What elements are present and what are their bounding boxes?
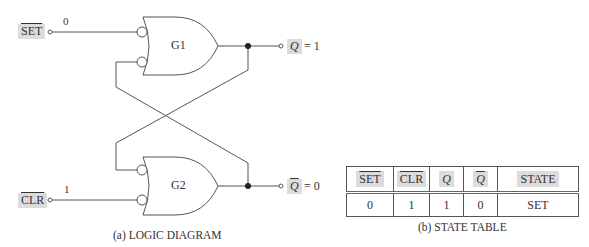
col-header-set: SET: [347, 167, 394, 193]
gate-g2-label: G2: [171, 178, 186, 193]
g1-inversion-bubble-bottom: [137, 57, 147, 67]
gate-g1-label: G1: [171, 38, 186, 53]
table-row: 0 1 1 0 SET: [347, 193, 579, 217]
col-header-clr: CLR: [394, 167, 430, 193]
clr-value: 1: [64, 183, 70, 195]
q-output-label: Q: [287, 39, 302, 54]
logic-diagram-caption: (a) LOGIC DIAGRAM: [113, 229, 222, 241]
q-junction-dot: [245, 43, 251, 49]
col-header-q: Q: [430, 167, 464, 193]
state-table: SET CLR Q Q STATE 0 1 1 0 SET: [346, 166, 579, 217]
q-output-value: = 1: [304, 39, 320, 54]
cell-qbar: 0: [464, 193, 498, 217]
qbar-output-label: Q: [287, 179, 302, 194]
g2-inversion-bubble-bottom: [137, 195, 147, 205]
state-table-caption: (b) STATE TABLE: [418, 221, 507, 233]
set-value: 0: [63, 15, 69, 27]
state-table-header-row: SET CLR Q Q STATE: [347, 167, 579, 193]
cell-state: SET: [498, 193, 579, 217]
q-terminal: [279, 44, 283, 48]
clr-terminal: [48, 198, 52, 202]
qbar-terminal: [279, 184, 283, 188]
cell-q: 1: [430, 193, 464, 217]
qbar-output-value: = 0: [304, 179, 320, 194]
cell-set: 0: [347, 193, 394, 217]
set-terminal: [48, 30, 52, 34]
qbar-junction-dot: [245, 183, 251, 189]
col-header-state: STATE: [498, 167, 579, 193]
g2-inversion-bubble-top: [137, 165, 147, 175]
g1-inversion-bubble-top: [137, 27, 147, 37]
cell-clr: 1: [394, 193, 430, 217]
clr-label: CLR: [18, 193, 47, 208]
set-label: SET: [18, 24, 45, 39]
col-header-qbar: Q: [464, 167, 498, 193]
